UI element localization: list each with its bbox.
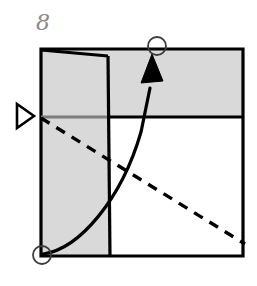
- flap-vertical-edge: [108, 56, 110, 257]
- folded-left-flap-fill: [41, 50, 110, 256]
- figure-canvas: 8: [0, 0, 257, 286]
- origami-step-figure: 8: [0, 0, 257, 286]
- step-number-label: 8: [36, 10, 50, 35]
